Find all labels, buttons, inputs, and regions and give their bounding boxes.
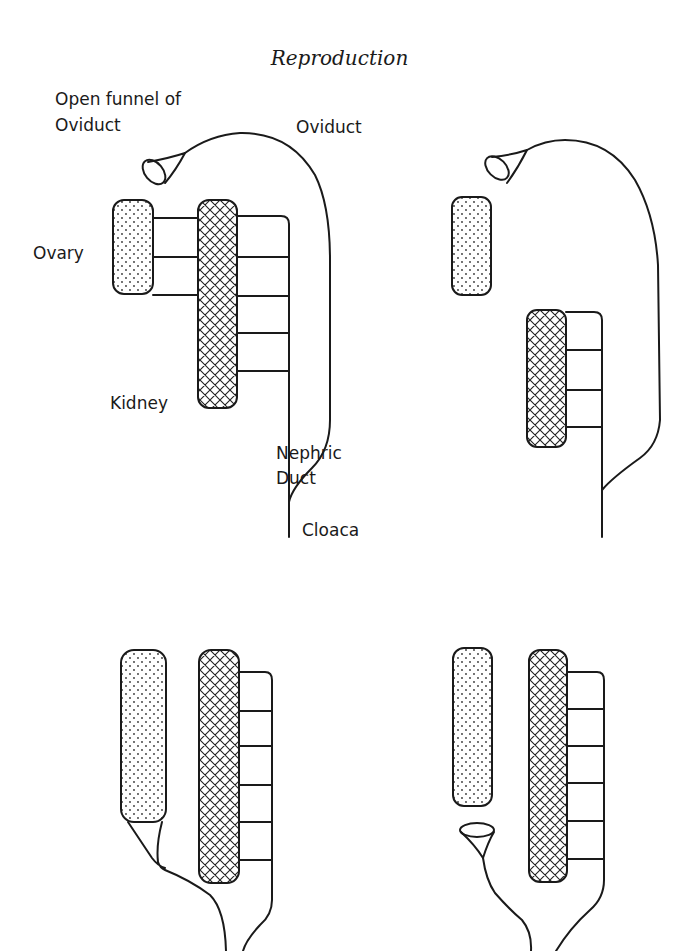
nephric-rungs [237, 257, 289, 371]
ovary [113, 200, 153, 294]
ovary [453, 648, 492, 806]
panel-top-right [452, 140, 660, 537]
nephric-duct [237, 216, 289, 537]
ovary-tubules [153, 218, 198, 295]
nephric-rungs [239, 711, 272, 860]
ovary [121, 650, 166, 822]
kidney [529, 650, 567, 882]
oviduct-tube [483, 858, 531, 951]
nephric-rungs [566, 350, 602, 427]
oviduct-funnel-icon [460, 823, 494, 858]
kidney [527, 310, 566, 447]
oviduct-funnel-icon [138, 153, 185, 189]
kidney [198, 200, 237, 408]
nephric-duct [566, 312, 602, 537]
oviduct-funnel-icon [481, 150, 527, 184]
kidney [199, 650, 239, 883]
panel-bottom-right [453, 648, 604, 951]
reproductive-system-diagram [0, 0, 679, 951]
panel-top-left [113, 133, 330, 537]
panel-bottom-left [121, 650, 272, 951]
ovary [452, 197, 491, 295]
nephric-duct [239, 672, 272, 951]
nephric-rungs [567, 709, 604, 859]
